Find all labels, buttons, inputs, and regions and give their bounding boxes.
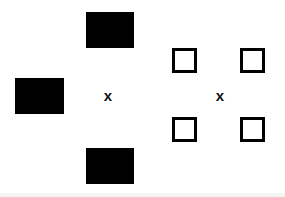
fixation-cross-left: x [100, 87, 116, 103]
filled-rect-bottom [86, 148, 134, 184]
outline-square-top-right [240, 48, 265, 73]
figure-canvas: x x [0, 0, 285, 197]
panel-filled-rectangle-configuration: x [0, 0, 145, 197]
outline-square-bottom-left [172, 117, 197, 142]
outline-square-bottom-right [240, 117, 265, 142]
panel-outlined-square-configuration: x [145, 0, 285, 197]
filled-rect-left [15, 78, 64, 114]
scan-edge-band [0, 193, 285, 197]
filled-rect-top [86, 12, 134, 48]
outline-square-top-left [172, 48, 197, 73]
fixation-cross-right: x [212, 87, 228, 103]
